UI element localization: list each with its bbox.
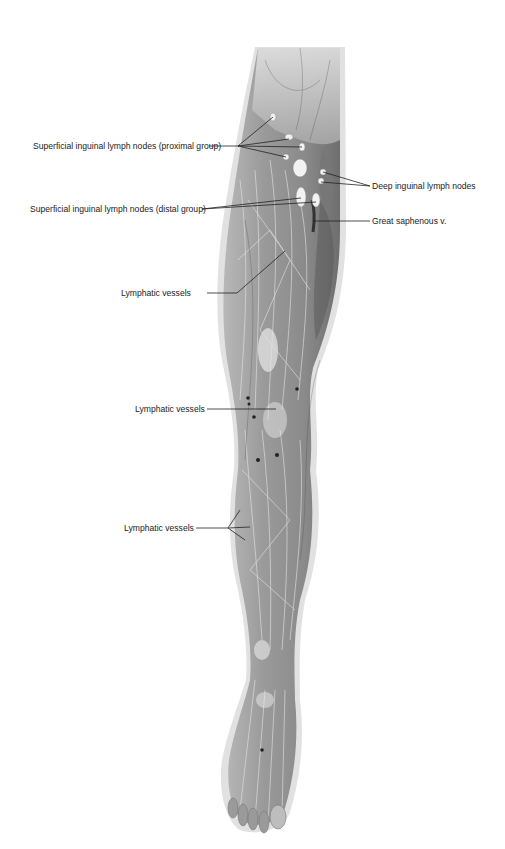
label-superficial-inguinal-proximal: Superficial inguinal lymph nodes (proxim…: [33, 141, 221, 151]
label-lymphatic-vessels-leg: Lymphatic vessels: [124, 523, 194, 533]
label-deep-inguinal: Deep inguinal lymph nodes: [372, 181, 476, 191]
lower-limb-illustration: [0, 0, 505, 849]
label-lymphatic-vessels-knee: Lymphatic vessels: [135, 404, 205, 414]
label-lymphatic-vessels-thigh: Lymphatic vessels: [121, 288, 191, 298]
anatomy-figure: Superficial inguinal lymph nodes (proxim…: [0, 0, 505, 849]
label-great-saphenous-v: Great saphenous v.: [372, 216, 446, 226]
label-superficial-inguinal-distal: Superficial inguinal lymph nodes (distal…: [30, 204, 206, 214]
